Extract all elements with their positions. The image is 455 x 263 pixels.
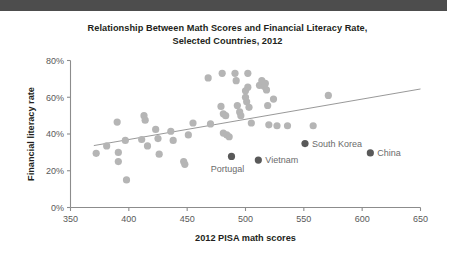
x-axis-tick-label: 400	[121, 214, 136, 224]
data-point	[270, 95, 277, 102]
x-axis-tick-label: 500	[238, 214, 253, 224]
y-axis-tick-label: 80%	[46, 56, 64, 66]
data-point	[262, 80, 269, 87]
x-axis-tick-label: 450	[180, 214, 195, 224]
data-point	[248, 119, 255, 126]
data-point	[170, 137, 177, 144]
highlighted-data-point	[255, 156, 262, 163]
data-point	[325, 92, 332, 99]
data-point	[138, 136, 145, 143]
data-point	[265, 121, 272, 128]
data-point	[233, 77, 240, 84]
chart-figure: Relationship Between Math Scores and Fin…	[0, 0, 455, 263]
data-point	[231, 70, 238, 77]
data-point	[234, 102, 241, 109]
scatter-plot: PortugalVietnamSouth KoreaChina 35040045…	[0, 0, 455, 263]
data-point-label: China	[377, 148, 401, 158]
data-point	[152, 126, 159, 133]
data-point	[244, 70, 251, 77]
data-point	[142, 117, 149, 124]
data-point	[189, 119, 196, 126]
data-point	[167, 128, 174, 135]
y-axis-title: Financial literacy rate	[26, 87, 36, 181]
y-axis-tick-label: 40%	[46, 129, 64, 139]
data-point	[205, 74, 212, 81]
data-point	[123, 176, 130, 183]
data-point	[219, 70, 226, 77]
x-axis-tick-label: 600	[355, 214, 370, 224]
data-point	[207, 120, 214, 127]
x-axis-tick-label: 650	[413, 214, 428, 224]
data-point	[237, 112, 244, 119]
data-point	[222, 112, 229, 119]
highlighted-data-point	[367, 149, 374, 156]
data-point	[144, 142, 151, 149]
x-axis-tick-label: 350	[63, 214, 78, 224]
annotations-layer: PortugalVietnamSouth KoreaChina	[211, 139, 401, 175]
data-point	[103, 142, 110, 149]
data-point-label: Vietnam	[265, 155, 298, 165]
x-axis-tick-label: 550	[296, 214, 311, 224]
x-axis-title: 2012 PISA math scores	[195, 233, 296, 243]
data-point-label: South Korea	[312, 139, 362, 149]
y-axis-tick-label: 0%	[51, 203, 64, 213]
highlighted-data-point	[301, 140, 308, 147]
data-point	[245, 104, 252, 111]
data-point	[115, 149, 122, 156]
data-point	[217, 103, 224, 110]
data-point	[185, 131, 192, 138]
data-point	[181, 161, 188, 168]
data-point	[93, 150, 100, 157]
data-point-label: Portugal	[211, 164, 245, 174]
data-point	[310, 122, 317, 129]
y-axis-tick-label: 60%	[46, 93, 64, 103]
data-point	[244, 84, 251, 91]
axes-layer	[67, 61, 421, 212]
axis-labels-layer: 3504004505005506006500%20%40%60%80%2012 …	[26, 56, 428, 243]
data-point	[122, 137, 129, 144]
data-point	[226, 133, 233, 140]
data-point	[263, 86, 270, 93]
data-point	[154, 135, 161, 142]
data-point	[115, 158, 122, 165]
data-point	[114, 118, 121, 125]
data-point	[156, 151, 163, 158]
data-point	[273, 122, 280, 129]
data-point	[284, 122, 291, 129]
data-point	[264, 102, 271, 109]
y-axis-tick-label: 20%	[46, 166, 64, 176]
highlighted-data-point	[228, 153, 235, 160]
